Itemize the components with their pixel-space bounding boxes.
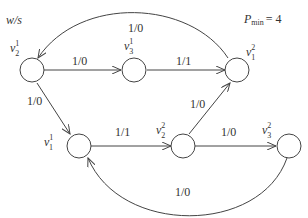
node-v3_1 bbox=[122, 58, 146, 82]
edge-v2_1-to-v1_1 bbox=[37, 83, 70, 134]
label-v2_1: v12 bbox=[10, 39, 19, 58]
edge-label-v2_1-v3_1: 1/0 bbox=[72, 54, 87, 68]
graph-diagram: w/s Pmin= 4 v12 v13 v21 v11 v22 v23 1/0 … bbox=[0, 0, 308, 218]
label-v2_2: v22 bbox=[156, 121, 165, 140]
label-v1_1: v11 bbox=[44, 133, 53, 152]
edge-label-v3_2-v1_1: 1/0 bbox=[175, 185, 190, 199]
label-v1_2: v21 bbox=[246, 43, 255, 62]
node-v2_1 bbox=[20, 58, 44, 82]
edge-label-v2_2-v1_2: 1/0 bbox=[190, 97, 205, 111]
edge-label-v3_1-v1_2: 1/1 bbox=[176, 54, 191, 68]
label-v3_2: v23 bbox=[262, 121, 271, 140]
corner-label: w/s bbox=[6, 13, 22, 27]
node-v1_1 bbox=[67, 134, 91, 158]
edge-label-v1_2-v2_1: 1/0 bbox=[128, 21, 143, 35]
label-v3_1: v13 bbox=[124, 37, 133, 56]
edge-label-v2_2-v3_2: 1/0 bbox=[221, 125, 236, 139]
pmin-label: Pmin= 4 bbox=[243, 12, 282, 27]
node-v2_2 bbox=[171, 134, 195, 158]
node-v3_2 bbox=[277, 134, 301, 158]
edge-label-v1_1-v2_2: 1/1 bbox=[115, 125, 130, 139]
node-v1_2 bbox=[225, 58, 249, 82]
edge-label-v2_1-v1_1: 1/0 bbox=[27, 94, 42, 108]
